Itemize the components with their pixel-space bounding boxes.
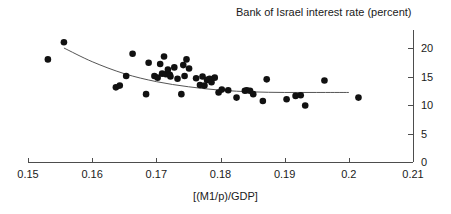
data-point — [181, 73, 188, 80]
data-point — [201, 82, 208, 89]
data-point — [263, 76, 270, 83]
x-tick-label-4: 0.19 — [265, 168, 305, 180]
data-point — [45, 56, 52, 63]
data-point — [297, 92, 304, 99]
data-point — [355, 94, 362, 101]
x-axis-title: [(M1/p)/GDP] — [0, 190, 451, 203]
data-point — [129, 50, 136, 57]
y-tick-label-1: 5 — [421, 128, 441, 140]
data-point — [174, 75, 181, 82]
x-tick-label-1: 0.16 — [72, 168, 112, 180]
data-point — [260, 98, 267, 105]
data-point — [116, 82, 123, 89]
scatter-chart-figure: Bank of Israel interest rate (percent) 0… — [0, 0, 451, 214]
data-point — [218, 86, 225, 93]
x-tick-label-5: 0.2 — [329, 168, 369, 180]
data-point — [61, 39, 68, 46]
x-tick-label-3: 0.18 — [201, 168, 241, 180]
plot-area — [0, 0, 451, 214]
x-tick-label-0: 0.15 — [8, 168, 48, 180]
data-point — [321, 77, 328, 84]
data-point — [157, 61, 164, 68]
data-point — [180, 62, 187, 69]
data-point — [161, 53, 168, 60]
data-point — [302, 102, 309, 109]
x-tick-label-2: 0.17 — [136, 168, 176, 180]
data-point — [143, 91, 150, 98]
data-point — [178, 91, 185, 98]
data-point — [145, 60, 152, 67]
y-tick-label-2: 10 — [421, 99, 441, 111]
data-point — [171, 64, 178, 71]
data-point — [233, 94, 240, 101]
data-point — [283, 96, 290, 103]
x-tick-label-6: 0.21 — [393, 168, 433, 180]
data-point — [250, 91, 257, 98]
data-point — [123, 73, 130, 80]
y-tick-label-3: 15 — [421, 71, 441, 83]
data-point — [183, 56, 190, 63]
y-tick-label-4: 20 — [421, 42, 441, 54]
data-points-group — [45, 39, 362, 109]
data-point — [211, 74, 218, 81]
data-point — [225, 87, 232, 94]
y-tick-label-0: 0 — [421, 156, 441, 168]
data-point — [186, 65, 193, 72]
data-point — [193, 75, 200, 82]
data-point — [167, 73, 174, 80]
